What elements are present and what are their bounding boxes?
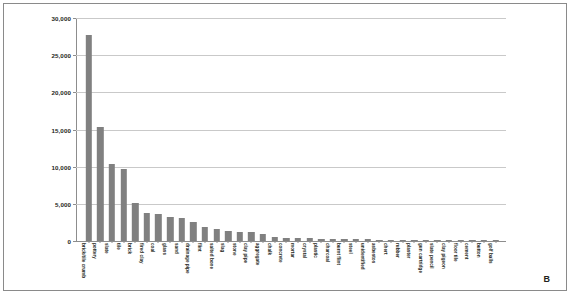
y-tick-label-30000: 30,000 [51,15,71,22]
y-tick-label-0: 0 [67,238,71,245]
bar-slot [118,18,130,241]
x-axis-label: chalk [267,243,272,255]
bar-slot [199,18,211,241]
figure-panel: 05,00010,00015,00020,00025,00030,000 bri… [0,0,570,294]
x-axis-label: plastic [314,243,319,258]
y-tick-mark-0 [73,241,76,242]
bar [202,227,208,241]
bar-slot [304,18,316,241]
bar-slot [408,18,420,241]
x-axis-label: chert [383,243,388,254]
bar-slot [269,18,281,241]
y-tick-label-15000: 15,000 [51,126,71,133]
bar [86,35,92,241]
x-axis-label: gun cartridge [418,243,423,273]
bar-slot [176,18,188,241]
x-axis-label: slate pencil [430,243,435,269]
x-axis-label: brick [128,243,133,254]
x-axis-label: charcoal [325,243,330,262]
bar [109,164,115,241]
bar [120,169,126,241]
x-axis-label: rubber [395,243,400,258]
bar-slot [362,18,374,241]
bar-slot [420,18,432,241]
bar [179,218,185,241]
bar-slot [95,18,107,241]
y-tick-label-25000: 25,000 [51,52,71,59]
plot-canvas: 05,00010,00015,00020,00025,00030,000 [76,18,506,241]
x-axis-label: coal [151,243,156,252]
bar [167,217,173,241]
gridline-0 [76,241,506,242]
x-axis-label: tile [116,243,121,250]
bar [155,214,161,241]
bar-slot [385,18,397,241]
x-axis-label: asbestos [372,243,377,263]
bar-slot [374,18,386,241]
x-axis-label: flint [197,243,202,252]
bar [260,234,266,241]
y-tick-label-5000: 5,000 [55,200,71,207]
x-axis-label: unidentified [360,243,365,270]
x-axis-label: pottery [93,243,98,259]
bar-slot [164,18,176,241]
y-tick-label-10000: 10,000 [51,163,71,170]
bar-slot [466,18,478,241]
x-axis-label: fired clay [139,243,144,264]
x-axis-label: golf balls [488,243,493,264]
bar-slot [211,18,223,241]
x-axis-label: cement [465,243,470,259]
bar-slot [153,18,165,241]
plot-area: 05,00010,00015,00020,00025,00030,000 [76,18,506,241]
x-label-slot: golf balls [490,243,502,291]
x-axis-label: mortar [290,243,295,258]
bar-slot [281,18,293,241]
bar-slot [222,18,234,241]
bar [213,229,219,241]
x-label-slot: slate [106,243,118,291]
bar [97,127,103,241]
bar-slot [246,18,258,241]
x-axis-label: crystal [302,243,307,258]
bar-slot [339,18,351,241]
bar-slot [292,18,304,241]
bar [248,232,254,241]
x-axis-label: burnt flint [337,243,342,265]
bar-slot [129,18,141,241]
bar [190,222,196,241]
bar-slot [315,18,327,241]
bar-slot [141,18,153,241]
bar-slot [106,18,118,241]
bar-slot [234,18,246,241]
x-axis-label: brick/tile crumb [81,243,86,278]
bar [225,231,231,241]
y-tick-label-20000: 20,000 [51,89,71,96]
bar-slot [478,18,490,241]
bar-slot [83,18,95,241]
x-axis-label: slag [221,243,226,252]
x-axis-label: plaster [407,243,412,258]
bar-series [76,18,506,241]
x-axis-label: slate [104,243,109,254]
x-axis-labels: brick/tile crumbpotteryslatetilebrickfir… [76,243,506,291]
bar [132,203,138,241]
x-axis-label: salted bone [209,243,214,269]
x-axis-label: sand [174,243,179,254]
x-axis-label: clay pigeon [441,243,446,269]
bar-slot [397,18,409,241]
x-axis-label: concrete [279,243,284,263]
x-axis-label: glass [163,243,168,255]
bar-slot [455,18,467,241]
x-axis-label: floor tile [453,243,458,262]
bar-slot [327,18,339,241]
x-axis-label: steel [348,243,353,254]
bar-slot [257,18,269,241]
bar [144,213,150,241]
bar [237,232,243,241]
bar-slot [443,18,455,241]
bar-slot [188,18,200,241]
x-axis-label: drainage pipe [186,243,191,274]
panel-label: B [544,274,551,284]
bar-slot [432,18,444,241]
x-axis-label: clay pipe [244,243,249,263]
